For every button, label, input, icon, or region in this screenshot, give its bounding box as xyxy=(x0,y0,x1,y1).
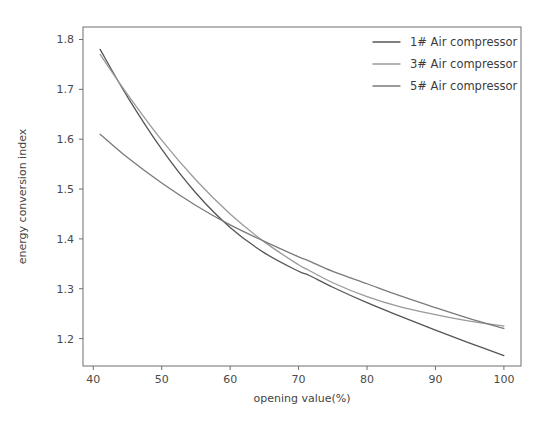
x-tick-label: 100 xyxy=(493,373,514,386)
x-tick-label: 40 xyxy=(86,373,100,386)
chart-figure: 4050607080901001.21.31.41.51.61.71.8open… xyxy=(0,0,545,421)
series-line-2 xyxy=(100,54,504,326)
y-tick-label: 1.7 xyxy=(57,83,75,96)
x-tick-label: 70 xyxy=(292,373,306,386)
legend-label-2: 3# Air compressor xyxy=(410,57,517,71)
legend-label-3: 5# Air compressor xyxy=(410,79,517,93)
y-tick-label: 1.2 xyxy=(57,333,75,346)
plot-frame xyxy=(83,27,521,366)
y-axis-title: energy conversion index xyxy=(16,128,29,264)
y-tick-label: 1.4 xyxy=(57,233,75,246)
x-axis-title: opening value(%) xyxy=(253,392,350,405)
y-tick-label: 1.3 xyxy=(57,283,75,296)
series-line-3 xyxy=(100,134,504,328)
x-tick-label: 80 xyxy=(360,373,374,386)
y-tick-label: 1.6 xyxy=(57,133,75,146)
y-tick-label: 1.5 xyxy=(57,183,75,196)
x-tick-label: 90 xyxy=(428,373,442,386)
x-tick-label: 60 xyxy=(223,373,237,386)
line-chart: 4050607080901001.21.31.41.51.61.71.8open… xyxy=(0,0,545,421)
legend-label-1: 1# Air compressor xyxy=(410,35,517,49)
x-tick-label: 50 xyxy=(155,373,169,386)
y-tick-label: 1.8 xyxy=(57,33,75,46)
